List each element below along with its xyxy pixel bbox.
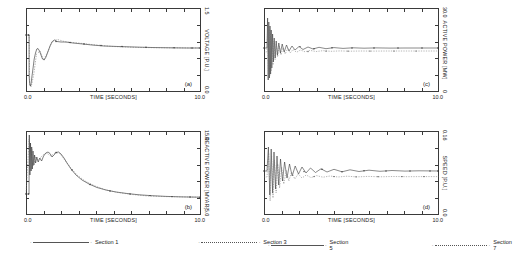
y-axis-label-a: VOLTAGE [P.U.] (204, 29, 210, 71)
x-axis-label-c: TIME [SECONDS] (264, 94, 439, 100)
y-axis-min-c: 0 (442, 90, 448, 93)
trace-group-b (26, 131, 201, 215)
panel-tag-d: (d) (423, 204, 430, 210)
legend-item-section-7: ·· Section 7 (432, 239, 516, 251)
trace-group-a (26, 8, 201, 92)
legend-label-section-1: Section 1 (95, 239, 118, 245)
x-axis-max-d: 10.0 (433, 217, 444, 223)
panel-speed: (d) TIME [SECONDS] 0.0 10.0 SPEED [P.U.]… (264, 131, 439, 215)
y-axis-max-d: 0.16 (442, 130, 448, 141)
x-axis-label-d: TIME [SECONDS] (264, 217, 439, 223)
trace-section-1-b (26, 135, 201, 197)
panel-active-power: (c) TIME [SECONDS] 0.0 10.0 ACTIVE POWER… (264, 8, 439, 92)
trace-section-3-b (26, 139, 201, 197)
y-axis-label-d: SPEED [P.U.] (442, 156, 448, 191)
legend-swatch-dotted-icon: ·· (432, 242, 491, 248)
y-axis-max-b: 15.0 (204, 130, 210, 141)
x-axis-label-a: TIME [SECONDS] (26, 94, 201, 100)
panel-tag-a: (a) (185, 81, 192, 87)
x-axis-label-b: TIME [SECONDS] (26, 217, 201, 223)
x-axis-min-c: 0.0 (262, 94, 270, 100)
y-axis-max-c: 30.0 (442, 7, 448, 18)
y-axis-min-d: 0.0 (442, 209, 448, 217)
legend-right: ·· Section 5 ·· Section 7 (268, 239, 517, 251)
legend-label-section-5: Section 5 (330, 239, 352, 251)
legend-item-section-1: ·· Section 1 (30, 239, 118, 245)
legend-left: ·· Section 1 ·· Section 3 (30, 239, 297, 245)
y-axis-min-b: -5.0 (204, 207, 210, 216)
y-axis-label-b: REACTIVE POWER [MVAR] (204, 137, 210, 210)
y-axis-min-a: 0.0 (204, 86, 210, 94)
trace-section-7-d (264, 153, 439, 201)
panel-voltage: (a) TIME [SECONDS] 0.0 10.0 VOLTAGE [P.U… (26, 8, 201, 92)
trace-section-5-d (264, 147, 439, 195)
trace-section-5-c (264, 18, 439, 80)
legend-swatch-dotted-icon: ·· (198, 239, 260, 245)
legend-swatch-solid-icon: ·· (268, 242, 327, 248)
panel-tag-c: (c) (423, 81, 430, 87)
x-axis-max-c: 10.0 (433, 94, 444, 100)
legend-item-section-5: ·· Section 5 (268, 239, 352, 251)
trace-group-c (264, 8, 439, 92)
x-axis-min-d: 0.0 (262, 217, 270, 223)
x-axis-min-b: 0.0 (24, 217, 32, 223)
trace-section-7-c (264, 25, 439, 78)
legend-label-section-7: Section 7 (493, 239, 515, 251)
y-axis-label-c: ACTIVE POWER [MW] (442, 21, 448, 80)
x-axis-min-a: 0.0 (24, 94, 32, 100)
trace-section-3-a (26, 35, 201, 87)
x-axis-max-a: 10.0 (195, 94, 206, 100)
trace-section-1-a (26, 35, 201, 86)
panel-tag-b: (b) (185, 204, 192, 210)
panel-reactive-power: (b) TIME [SECONDS] 0.0 10.0 REACTIVE POW… (26, 131, 201, 215)
trace-group-d (264, 131, 439, 215)
x-axis-max-b: 10.0 (195, 217, 206, 223)
markers-b (25, 152, 201, 198)
y-axis-max-a: 1.5 (204, 7, 210, 15)
legend-swatch-solid-icon: ·· (30, 239, 92, 245)
